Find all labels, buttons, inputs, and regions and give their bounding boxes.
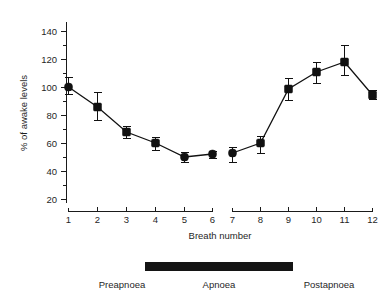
data-point-6	[209, 150, 217, 158]
series-line-preapnoea	[69, 87, 213, 157]
data-point-7	[229, 149, 237, 157]
data-point-9	[285, 85, 293, 93]
data-point-8	[257, 139, 265, 147]
x-tick-label-1: 1	[66, 214, 71, 225]
x-tick-label-11: 11	[340, 214, 350, 225]
x-tick-label-5: 5	[182, 214, 187, 225]
x-axis: 1 2 3 4 5 6 7 8 9 10 11 12 Breath number	[66, 207, 378, 242]
chart-figure: 140 120 100 80 60 40 20 % of awake level…	[0, 0, 391, 307]
x-tick-label-7: 7	[230, 214, 235, 225]
x-tick-label-12: 12	[367, 214, 378, 225]
x-axis-line-left	[69, 208, 213, 212]
data-markers	[65, 58, 377, 161]
x-tick-label-2: 2	[95, 214, 100, 225]
y-tick-label-80: 80	[46, 110, 57, 121]
line-chart: 140 120 100 80 60 40 20 % of awake level…	[0, 0, 391, 307]
x-tick-label-8: 8	[258, 214, 263, 225]
x-tick-label-4: 4	[153, 214, 158, 225]
x-tick-label-10: 10	[311, 214, 322, 225]
y-tick-label-140: 140	[41, 26, 57, 37]
y-axis: 140 120 100 80 60 40 20 % of awake level…	[18, 22, 67, 205]
x-axis-title: Breath number	[189, 230, 252, 241]
phase-label-preapnoea: Preapnoea	[99, 279, 146, 290]
phase-label-postapnoea: Postapnoea	[304, 279, 355, 290]
data-point-10	[313, 68, 321, 76]
y-tick-label-100: 100	[41, 82, 57, 93]
data-point-4	[152, 139, 160, 147]
error-bars	[65, 45, 377, 162]
phase-label-apnoea: Apnoea	[203, 279, 236, 290]
series-line-postapnoea	[233, 62, 373, 153]
apnoea-bar	[145, 262, 293, 271]
phase-annotation: Preapnoea Apnoea Postapnoea	[99, 262, 355, 290]
data-point-12	[369, 91, 377, 99]
data-series	[65, 45, 377, 162]
y-axis-title: % of awake levels	[18, 75, 29, 151]
x-tick-label-6: 6	[210, 214, 215, 225]
y-tick-label-40: 40	[46, 166, 57, 177]
data-point-5	[181, 153, 189, 161]
data-point-2	[94, 103, 102, 111]
data-point-3	[123, 128, 131, 136]
y-tick-label-120: 120	[41, 54, 57, 65]
x-axis-line-right	[233, 208, 373, 212]
y-tick-label-60: 60	[46, 138, 57, 149]
x-tick-label-9: 9	[286, 214, 291, 225]
data-point-11	[341, 58, 349, 66]
x-tick-label-3: 3	[124, 214, 129, 225]
data-point-1	[65, 83, 73, 91]
y-tick-label-20: 20	[46, 194, 57, 205]
